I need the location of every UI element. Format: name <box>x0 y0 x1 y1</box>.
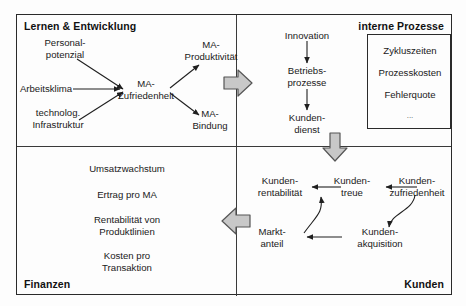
node-rentabilitaet-produktlinien: Rentabilität von Produktlinien <box>59 214 195 237</box>
node-ma-bindung: MA- Bindung <box>183 108 237 131</box>
quadrant-title-customers: Kunden <box>404 278 444 290</box>
node-technolog-infrastruktur: technolog. Infrastruktur <box>20 107 96 130</box>
node-line: Ertrag pro MA <box>67 189 187 201</box>
node-line: Zufriedenheit <box>111 90 181 102</box>
node-line: Umsatzwachstum <box>59 163 195 175</box>
node-line: Personal- <box>31 37 99 49</box>
node-line: MA- <box>111 78 181 90</box>
node-ma-zufriedenheit: MA- Zufriedenheit <box>111 78 181 101</box>
node-line: Produktlinien <box>59 226 195 238</box>
kpi-item-prozesskosten: Prozesskosten <box>368 67 452 78</box>
node-line: zufriedenheit <box>380 187 454 199</box>
node-arbeitsklima: Arbeitsklima <box>15 83 77 95</box>
node-line: Transaktion <box>69 262 185 274</box>
node-betriebsprozesse: Betriebs- prozesse <box>275 65 339 88</box>
node-line: Betriebs- <box>275 65 339 77</box>
curve-kundenzufriedenheit-to-kundenakquisition <box>389 195 415 227</box>
node-line: Infrastruktur <box>20 119 96 131</box>
block-arrow-customers-to-finance <box>220 205 252 237</box>
node-line: rentabilität <box>245 187 315 199</box>
node-line: anteil <box>248 238 296 250</box>
node-innovation: Innovation <box>270 30 344 42</box>
node-line: Kunden- <box>276 112 338 124</box>
node-line: Kosten pro <box>69 250 185 262</box>
node-kundenzufriedenheit: Kunden- zufriedenheit <box>380 175 454 198</box>
node-personalpotenzial: Personal- potenzial <box>31 37 99 60</box>
node-line: Kunden- <box>380 175 454 187</box>
node-kundentreue: Kunden- treue <box>324 175 380 198</box>
kpi-item-ellipsis: ... <box>368 111 452 120</box>
horizontal-divider <box>17 146 451 147</box>
kpi-item-zykluszeiten: Zykluszeiten <box>368 45 452 56</box>
node-line: Kunden- <box>245 175 315 187</box>
node-line: technolog. <box>20 107 96 119</box>
node-line: prozesse <box>275 77 339 89</box>
node-marktanteil: Markt- anteil <box>248 226 296 249</box>
quadrant-title-learning: Lernen & Entwicklung <box>24 20 136 32</box>
node-line: MA- <box>177 39 245 51</box>
kpi-box-processes: Zykluszeiten Prozesskosten Fehlerquote .… <box>367 34 451 129</box>
node-line: Produktivität <box>177 51 245 63</box>
curve-marktanteil-to-kundentreue <box>304 197 321 233</box>
node-line: MA- <box>183 108 237 120</box>
node-ma-produktivitaet: MA- Produktivität <box>177 39 245 62</box>
node-line: akquisition <box>342 238 418 250</box>
node-line: Rentabilität von <box>59 214 195 226</box>
node-line: Markt- <box>248 226 296 238</box>
node-line: Bindung <box>183 120 237 132</box>
node-line: potenzial <box>31 49 99 61</box>
balanced-scorecard-frame: Lernen & Entwicklung interne Prozesse Fi… <box>16 14 452 295</box>
quadrant-title-processes: interne Prozesse <box>358 20 444 32</box>
diagram-canvas: Lernen & Entwicklung interne Prozesse Fi… <box>0 0 466 306</box>
node-line: treue <box>324 187 380 199</box>
node-kundenakquisition: Kunden- akquisition <box>342 226 418 249</box>
block-arrow-learning-to-processes <box>222 67 254 99</box>
node-line: Innovation <box>270 30 344 42</box>
node-line: Kunden- <box>342 226 418 238</box>
node-line: Kunden- <box>324 175 380 187</box>
node-line: Arbeitsklima <box>15 83 77 95</box>
quadrant-title-finance: Finanzen <box>24 278 70 290</box>
kpi-item-fehlerquote: Fehlerquote <box>368 89 452 100</box>
block-arrow-processes-to-customers <box>321 131 349 163</box>
node-kosten-pro-transaktion: Kosten pro Transaktion <box>69 250 185 273</box>
node-kundenrentabilitaet: Kunden- rentabilität <box>245 175 315 198</box>
node-ertrag-pro-ma: Ertrag pro MA <box>67 189 187 201</box>
node-umsatzwachstum: Umsatzwachstum <box>59 163 195 175</box>
